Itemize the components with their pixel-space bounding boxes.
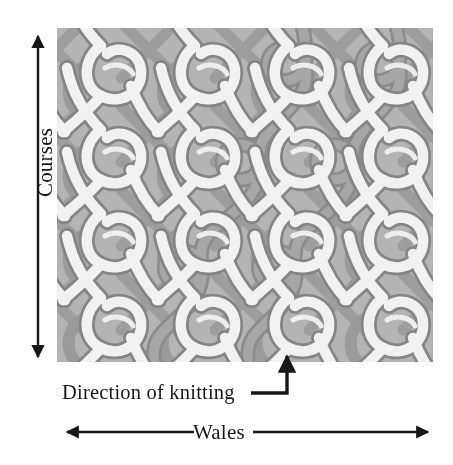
fabric-loop-diagram [57,28,433,362]
fabric-illustration [57,28,433,362]
courses-axis-label: Courses [33,108,58,218]
wales-axis-label: Wales [193,420,245,445]
knitted-fabric-figure: Courses Wales Direction of knitting [0,0,453,465]
direction-of-knitting-label: Direction of knitting [62,381,235,404]
